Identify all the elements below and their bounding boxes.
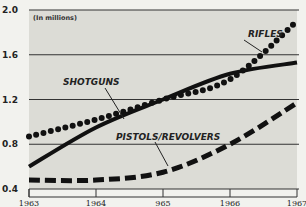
x-tick-label: 1966 (220, 199, 240, 207)
y-tick-label: 0.4 (2, 184, 18, 194)
x-tick-label: 1964 (86, 199, 106, 207)
rifles-label: RIFLES (248, 29, 283, 39)
unit-label: (In millions) (33, 14, 77, 22)
y-axis-labels: 2.01.61.20.80.4 (2, 5, 18, 194)
y-tick-label: 1.6 (2, 50, 18, 60)
shotguns-label: SHOTGUNS (63, 77, 120, 87)
x-tick-label: 1967 (287, 199, 306, 207)
x-tick-label: 965 (155, 199, 170, 207)
y-tick-label: 2.0 (2, 5, 18, 15)
y-tick-label: 0.8 (2, 139, 18, 149)
y-tick-label: 1.2 (2, 95, 18, 105)
x-axis-labels: 1963196496519661967 (19, 189, 306, 207)
pistols-revolvers-label: PISTOLS/REVOLVERS (116, 132, 220, 142)
firearms-line-chart: 2.01.61.20.80.4 1963196496519661967 (In … (0, 0, 306, 207)
x-tick-label: 1963 (19, 199, 39, 207)
